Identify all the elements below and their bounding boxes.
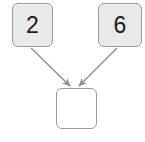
node-result[interactable] <box>56 88 97 129</box>
arrow-left-to-result <box>31 48 70 86</box>
node-right-operand[interactable]: 6 <box>98 3 142 47</box>
node-left-operand-label: 2 <box>26 14 39 37</box>
node-left-operand[interactable]: 2 <box>12 3 53 47</box>
diagram-canvas: 2 6 <box>0 0 145 142</box>
arrow-right-to-result <box>79 48 117 86</box>
node-right-operand-label: 6 <box>114 14 127 37</box>
